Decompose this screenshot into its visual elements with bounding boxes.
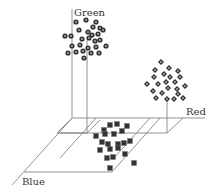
blue-plane-left: [60, 118, 96, 158]
3d-scatter-diagram: Green Red Blue: [0, 0, 217, 195]
green-cluster: [62, 17, 108, 60]
data-point: [150, 88, 156, 94]
data-point: [93, 44, 98, 49]
data-point: [69, 43, 74, 48]
data-point: [76, 27, 81, 32]
data-point: [81, 55, 86, 60]
data-point: [172, 79, 178, 85]
data-point: [125, 124, 130, 129]
data-point: [115, 122, 120, 127]
data-point: [163, 79, 169, 85]
data-point: [108, 166, 113, 171]
data-point: [175, 68, 181, 74]
red-cluster: [144, 59, 188, 102]
data-point: [161, 71, 167, 77]
data-point: [171, 96, 177, 102]
data-point: [180, 95, 186, 101]
blue-cluster: [94, 122, 137, 171]
data-point: [158, 59, 164, 65]
data-point: [120, 129, 125, 134]
data-point: [175, 91, 181, 97]
data-point: [111, 155, 116, 160]
data-point: [159, 90, 165, 96]
data-point: [95, 31, 100, 36]
data-point: [73, 19, 78, 24]
data-point: [165, 85, 171, 91]
data-point: [153, 95, 159, 101]
data-point: [83, 17, 88, 22]
data-point: [77, 42, 82, 47]
red-axis-label: Red: [186, 106, 206, 117]
data-point: [103, 132, 108, 137]
data-point: [100, 140, 105, 145]
data-point: [68, 33, 73, 38]
blue-axis-label: Blue: [22, 176, 45, 187]
data-point: [123, 152, 128, 157]
data-point: [93, 19, 98, 24]
data-point: [73, 49, 78, 54]
data-point: [116, 146, 121, 151]
blue-axis: [12, 118, 72, 185]
data-point: [65, 50, 70, 55]
data-point: [144, 81, 150, 87]
data-point: [90, 24, 95, 29]
green-axis-label: Green: [74, 7, 106, 18]
data-point: [88, 50, 93, 55]
data-point: [98, 148, 103, 153]
data-point: [79, 36, 84, 41]
data-point: [174, 86, 180, 92]
data-point: [152, 67, 158, 73]
data-point: [182, 83, 188, 89]
data-point: [80, 48, 85, 53]
data-point: [164, 96, 170, 102]
data-point: [167, 74, 173, 80]
data-point: [122, 141, 127, 146]
data-point: [86, 35, 91, 40]
data-point: [94, 134, 99, 139]
data-point: [92, 38, 97, 43]
data-point: [62, 33, 67, 38]
data-point: [128, 139, 133, 144]
data-point: [105, 156, 110, 161]
data-point: [112, 132, 117, 137]
data-point: [108, 147, 113, 152]
data-point: [96, 50, 101, 55]
data-point: [106, 142, 111, 147]
data-point: [100, 27, 105, 32]
data-point: [132, 161, 137, 166]
data-point: [103, 43, 108, 48]
data-point: [85, 45, 90, 50]
floor-back-diagonal: [87, 120, 100, 133]
data-point: [166, 65, 172, 71]
data-point: [108, 123, 113, 128]
data-point: [151, 74, 157, 80]
data-point: [177, 74, 183, 80]
data-point: [155, 81, 161, 87]
red-plane-diagonal-1: [167, 118, 183, 133]
data-point: [97, 37, 102, 42]
